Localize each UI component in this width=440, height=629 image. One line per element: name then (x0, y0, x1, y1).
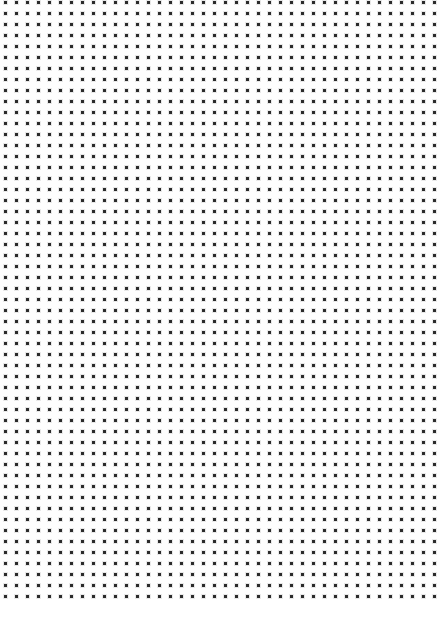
grid-dot (125, 199, 128, 202)
grid-dot (70, 243, 73, 246)
grid-dot (114, 67, 117, 70)
grid-dot (169, 364, 172, 367)
grid-dot (158, 551, 161, 554)
grid-dot (169, 166, 172, 169)
grid-dot (290, 254, 293, 257)
grid-dot (70, 419, 73, 422)
grid-dot (378, 89, 381, 92)
grid-dot (290, 155, 293, 158)
grid-dot (378, 78, 381, 81)
grid-dot (268, 1, 271, 4)
grid-dot (235, 133, 238, 136)
grid-dot (235, 188, 238, 191)
grid-dot (103, 243, 106, 246)
grid-dot (158, 474, 161, 477)
grid-dot (268, 452, 271, 455)
grid-dot (433, 595, 436, 598)
grid-dot (92, 430, 95, 433)
grid-dot (378, 67, 381, 70)
grid-dot (103, 430, 106, 433)
grid-dot (81, 144, 84, 147)
grid-dot (279, 23, 282, 26)
grid-dot (235, 386, 238, 389)
grid-dot (224, 419, 227, 422)
grid-dot (59, 595, 62, 598)
grid-dot (312, 397, 315, 400)
grid-dot (235, 485, 238, 488)
grid-dot (334, 331, 337, 334)
grid-dot (114, 232, 117, 235)
grid-dot (136, 254, 139, 257)
grid-dot (180, 265, 183, 268)
grid-dot (158, 1, 161, 4)
grid-dot (191, 595, 194, 598)
grid-dot (136, 474, 139, 477)
grid-dot (125, 342, 128, 345)
grid-dot (191, 254, 194, 257)
grid-dot (411, 1, 414, 4)
grid-dot (389, 584, 392, 587)
grid-dot (312, 551, 315, 554)
grid-dot (169, 529, 172, 532)
grid-dot (334, 177, 337, 180)
grid-dot (48, 254, 51, 257)
grid-dot (158, 441, 161, 444)
grid-dot (158, 144, 161, 147)
grid-dot (323, 573, 326, 576)
grid-dot (180, 331, 183, 334)
grid-dot (312, 100, 315, 103)
grid-dot (202, 287, 205, 290)
grid-dot (213, 254, 216, 257)
grid-dot (103, 331, 106, 334)
grid-dot (246, 133, 249, 136)
grid-dot (191, 540, 194, 543)
grid-dot (4, 89, 7, 92)
grid-dot (257, 320, 260, 323)
grid-dot (125, 485, 128, 488)
grid-dot (290, 221, 293, 224)
grid-dot (169, 408, 172, 411)
grid-dot (345, 441, 348, 444)
grid-dot (345, 430, 348, 433)
grid-dot (81, 463, 84, 466)
grid-dot (235, 342, 238, 345)
grid-dot (433, 221, 436, 224)
grid-dot (48, 56, 51, 59)
grid-dot (213, 518, 216, 521)
grid-dot (114, 199, 117, 202)
grid-dot (103, 529, 106, 532)
grid-dot (334, 419, 337, 422)
grid-dot (48, 199, 51, 202)
grid-dot (103, 298, 106, 301)
grid-dot (59, 122, 62, 125)
grid-dot (235, 595, 238, 598)
grid-dot (378, 507, 381, 510)
grid-dot (356, 397, 359, 400)
grid-dot (345, 34, 348, 37)
grid-dot (158, 67, 161, 70)
grid-dot (180, 34, 183, 37)
grid-dot (389, 474, 392, 477)
grid-dot (411, 320, 414, 323)
grid-dot (400, 188, 403, 191)
grid-dot (389, 452, 392, 455)
grid-dot (103, 386, 106, 389)
grid-dot (169, 518, 172, 521)
grid-dot (433, 111, 436, 114)
grid-dot (422, 419, 425, 422)
grid-dot (246, 155, 249, 158)
grid-dot (411, 232, 414, 235)
grid-dot (180, 320, 183, 323)
grid-dot (400, 287, 403, 290)
grid-dot (158, 78, 161, 81)
grid-dot (81, 155, 84, 158)
grid-dot (301, 353, 304, 356)
grid-dot (367, 287, 370, 290)
grid-dot (224, 342, 227, 345)
grid-dot (356, 122, 359, 125)
grid-dot (312, 364, 315, 367)
grid-dot (59, 562, 62, 565)
grid-dot (290, 562, 293, 565)
grid-dot (334, 529, 337, 532)
grid-dot (279, 463, 282, 466)
